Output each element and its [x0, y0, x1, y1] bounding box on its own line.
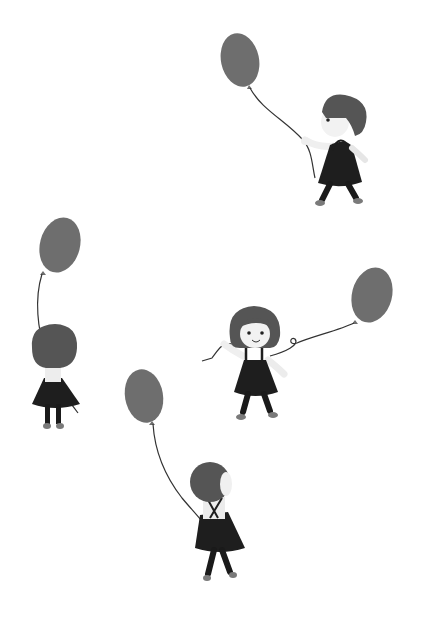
shoe	[315, 200, 325, 206]
leg-left	[208, 550, 214, 574]
balloon	[216, 30, 264, 91]
girl-front-center	[202, 263, 399, 420]
shoe	[353, 198, 363, 204]
shoe	[229, 572, 237, 578]
balloon-string	[250, 88, 315, 178]
eye	[260, 331, 264, 335]
balloon	[121, 366, 168, 426]
balloon	[33, 213, 86, 277]
hair	[32, 324, 77, 368]
illustration-canvas	[0, 0, 421, 625]
leg-right	[348, 184, 356, 198]
leg-right	[222, 550, 230, 572]
girl-walking-right	[216, 30, 367, 206]
leg-left	[322, 184, 330, 200]
shoe	[268, 412, 278, 418]
leg-left	[45, 404, 50, 424]
leg-right	[56, 404, 61, 424]
shoe	[43, 423, 51, 429]
balloon-knot	[40, 271, 46, 275]
shoe	[203, 575, 211, 581]
eye	[326, 118, 330, 122]
eye	[247, 331, 251, 335]
face-side	[220, 472, 232, 496]
leg-left	[243, 394, 248, 412]
shoe	[236, 414, 246, 420]
girl-back-left	[32, 213, 87, 429]
balloon	[345, 263, 398, 327]
shoe	[56, 423, 64, 429]
leg-right	[264, 394, 270, 411]
girl-back-bottom	[121, 366, 245, 581]
hand	[301, 137, 309, 145]
balloon-string	[270, 323, 354, 356]
straps	[246, 348, 262, 362]
